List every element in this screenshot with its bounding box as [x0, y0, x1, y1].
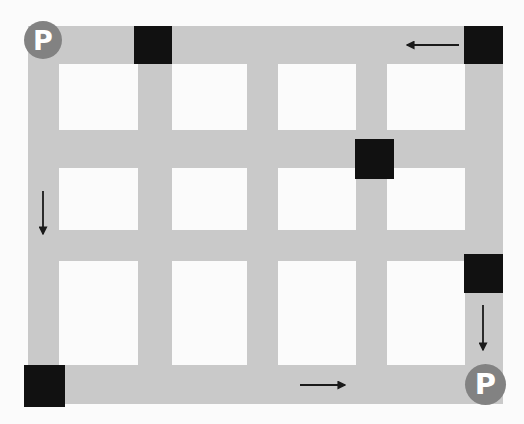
- horizontal-road-4: [28, 365, 503, 404]
- vertical-road-1: [28, 26, 59, 404]
- black-block-top-center: [134, 26, 172, 64]
- black-block-right: [464, 254, 503, 293]
- black-block-middle: [355, 139, 394, 179]
- black-block-bottom-left: [24, 365, 65, 407]
- street-grid-map: PP: [0, 0, 524, 424]
- parking-marker-start[interactable]: P: [24, 21, 62, 59]
- vertical-road-3: [247, 26, 278, 404]
- vertical-road-2: [138, 26, 172, 404]
- parking-marker-end[interactable]: P: [465, 364, 506, 405]
- horizontal-road-3: [28, 230, 503, 261]
- parking-marker-label: P: [33, 27, 53, 54]
- black-block-top-right: [464, 26, 503, 64]
- vertical-road-5: [465, 26, 503, 404]
- vertical-road-4: [356, 26, 387, 404]
- horizontal-road-2: [28, 130, 503, 168]
- horizontal-road-1: [28, 26, 503, 64]
- parking-marker-label: P: [475, 370, 496, 399]
